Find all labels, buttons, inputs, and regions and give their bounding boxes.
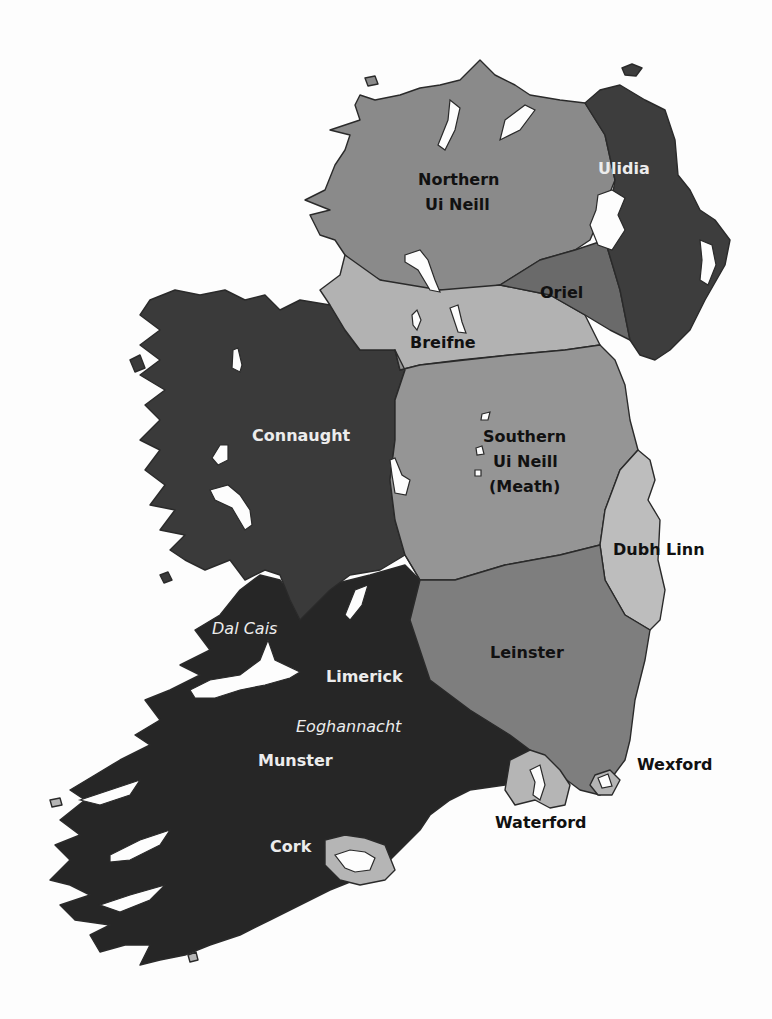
label-leinster: Leinster	[490, 643, 564, 662]
label-connaught: Connaught	[252, 426, 351, 445]
label-eoghannacht: Eoghannacht	[296, 717, 402, 736]
label-waterford: Waterford	[495, 813, 587, 832]
label-dubh-linn: Dubh Linn	[613, 540, 705, 559]
label-northern-ui-neill-line1: Northern	[418, 170, 499, 189]
label-oriel: Oriel	[540, 283, 583, 302]
label-dal-cais: Dal Cais	[212, 619, 277, 638]
label-limerick: Limerick	[326, 667, 403, 686]
label-cork: Cork	[270, 837, 312, 856]
label-ulidia: Ulidia	[598, 159, 650, 178]
island-aran	[160, 572, 172, 583]
label-southern-ui-neill-line3: (Meath)	[489, 477, 560, 496]
label-northern-ui-neill-line2: Ui Neill	[425, 195, 490, 214]
label-breifne: Breifne	[410, 333, 476, 352]
label-southern-ui-neill-line1: Southern	[483, 427, 566, 446]
label-southern-ui-neill-line2: Ui Neill	[493, 452, 558, 471]
island-blasket	[50, 798, 62, 807]
island-achill	[130, 355, 145, 372]
meath-lake-2	[476, 446, 484, 455]
ireland-kingdoms-map: Northern Ui Neill Ulidia Oriel Breifne C…	[0, 0, 772, 1019]
label-wexford: Wexford	[637, 755, 713, 774]
meath-lake-3	[475, 470, 481, 476]
label-munster: Munster	[258, 751, 333, 770]
island-tory	[365, 76, 378, 86]
island-rathlin	[622, 64, 642, 76]
